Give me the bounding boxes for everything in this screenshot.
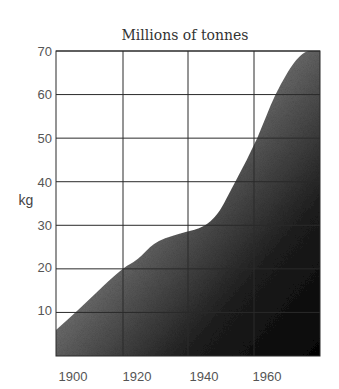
y-tick-label: 40 [38, 175, 52, 190]
chart-title: Millions of tonnes [122, 27, 249, 43]
y-axis-ticks: 10 20 30 40 50 60 70 [38, 44, 52, 318]
x-tick-label: 1920 [123, 369, 152, 384]
y-tick-label: 70 [38, 44, 52, 59]
x-tick-label: 1960 [253, 369, 282, 384]
x-axis-ticks: 1900 1920 1940 1960 [59, 369, 282, 384]
area-chart: Millions of tonnes 10 20 30 40 50 60 70 … [0, 0, 339, 389]
y-axis-label: kg [19, 192, 34, 208]
y-tick-label: 20 [38, 260, 52, 275]
y-tick-label: 60 [38, 87, 52, 102]
y-tick-label: 50 [38, 131, 52, 146]
x-tick-label: 1940 [190, 369, 219, 384]
y-tick-label: 30 [38, 218, 52, 233]
x-tick-label: 1900 [59, 369, 88, 384]
y-tick-label: 10 [38, 303, 52, 318]
